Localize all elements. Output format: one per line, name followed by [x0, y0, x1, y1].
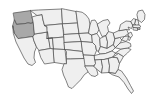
state-ct[interactable]: Connecticut: [134, 28, 138, 31]
state-ar[interactable]: Arkansas: [84, 55, 96, 66]
state-ri[interactable]: Rhode Island: [138, 28, 140, 30]
state-sd[interactable]: South Dakota: [63, 23, 80, 35]
state-al[interactable]: Alabama: [102, 59, 110, 74]
state-nh[interactable]: New Hampshire: [135, 20, 139, 26]
state-ne[interactable]: Nebraska: [64, 34, 82, 43]
us-map-svg: WashingtonOregonCaliforniaNevadaIdahoMon…: [0, 0, 167, 109]
state-wa[interactable]: Washington: [14, 11, 34, 25]
us-map-container: WashingtonOregonCaliforniaNevadaIdahoMon…: [0, 0, 167, 109]
state-nm[interactable]: New Mexico: [54, 49, 67, 64]
state-nd[interactable]: North Dakota: [62, 9, 78, 24]
